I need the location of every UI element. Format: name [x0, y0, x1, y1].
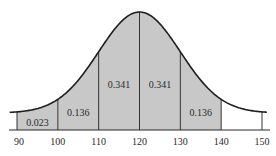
- probability-label-90-100: 0.023: [26, 117, 49, 128]
- probability-label-100-110: 0.136: [67, 107, 90, 118]
- probability-label-120-130: 0.341: [149, 79, 172, 90]
- shaded-region-100-110: [58, 52, 99, 130]
- shaded-region-130-140: [180, 52, 221, 130]
- x-tick-150: 150: [255, 136, 270, 147]
- normal-distribution-chart: 90100110120130140150 0.0230.1360.3410.34…: [0, 0, 276, 156]
- shaded-region-120-130: [140, 12, 181, 130]
- x-tick-100: 100: [50, 136, 65, 147]
- x-tick-130: 130: [173, 136, 188, 147]
- probability-label-110-120: 0.341: [108, 79, 131, 90]
- x-tick-120: 120: [132, 136, 147, 147]
- x-tick-labels: 90100110120130140150: [14, 136, 270, 147]
- x-tick-140: 140: [214, 136, 229, 147]
- shaded-region-110-120: [99, 12, 140, 130]
- x-tick-110: 110: [91, 136, 106, 147]
- x-tick-90: 90: [14, 136, 24, 147]
- probability-label-130-140: 0.136: [190, 107, 213, 118]
